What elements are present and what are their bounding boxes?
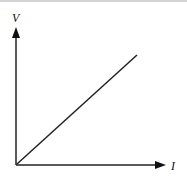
y-axis-arrow-icon xyxy=(12,27,20,38)
vi-graph: V I xyxy=(0,0,187,179)
x-axis-arrow-icon xyxy=(155,161,166,169)
data-line xyxy=(17,55,137,164)
x-axis-label: I xyxy=(170,159,176,173)
y-axis-label: V xyxy=(12,11,21,25)
